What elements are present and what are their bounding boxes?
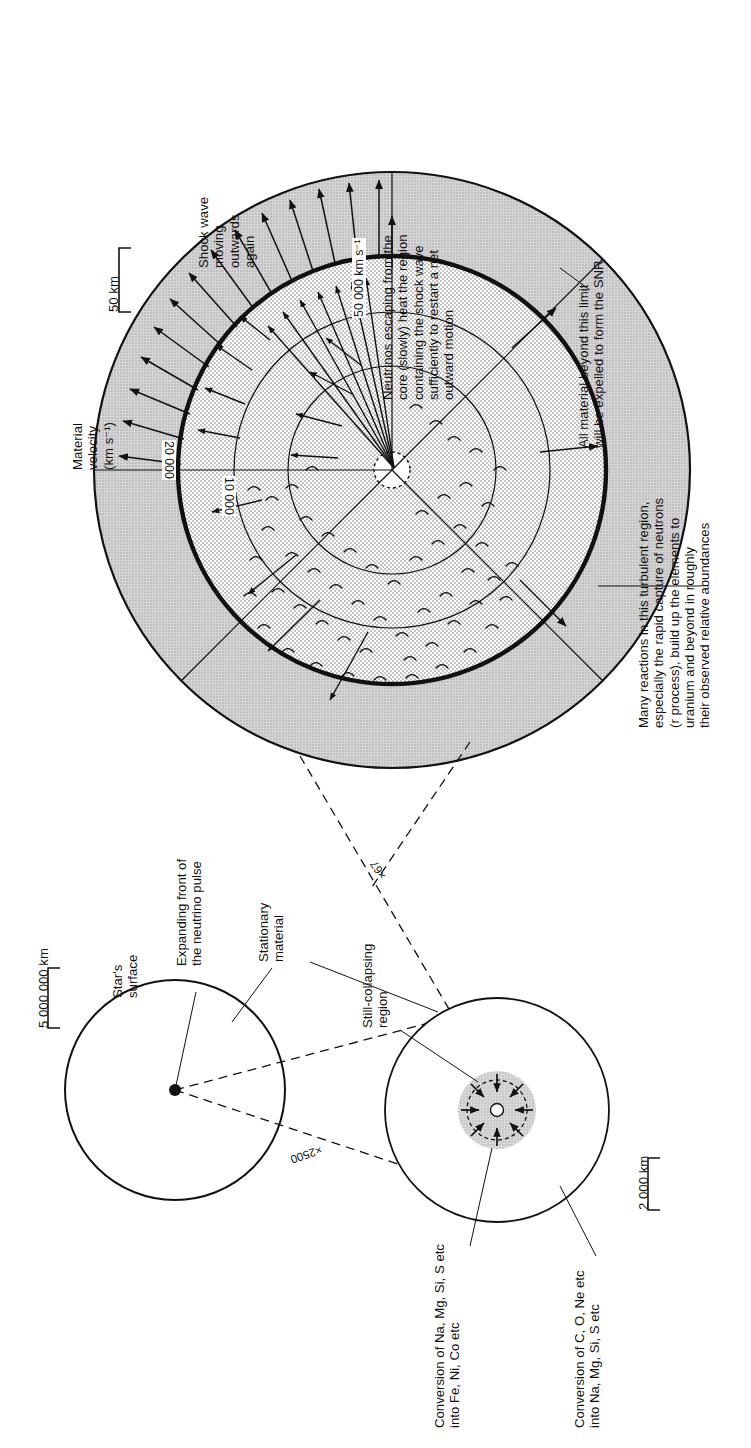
- stationary-material-label: Stationary material: [256, 903, 287, 962]
- neutrinos-annotation: Neutrinos escaping from the core (slowly…: [380, 234, 457, 400]
- scale-bar-2000km-label: 2 000 km: [636, 1156, 651, 1210]
- core-centre-circle: [491, 1104, 504, 1117]
- velocity-tick-20000: 20 000: [162, 440, 176, 480]
- diagram-canvas: Material velocity (km s⁻¹) 50 km Shock w…: [0, 0, 751, 1448]
- scale-bar-50km-label: 50 km: [106, 276, 121, 312]
- velocity-tick-10000: 10 000: [222, 476, 236, 516]
- leader-conversion-b: [560, 1186, 596, 1256]
- scale-bar-5000000km-label: 5 000 000 km: [36, 948, 51, 1028]
- shock-wave-annotation: Shock wave moving outwards again: [196, 197, 257, 268]
- velocity-tick-50000: 50 000 km s⁻¹: [352, 238, 366, 318]
- neutrino-pulse-label: Expanding front of the neutrino pulse: [174, 859, 205, 966]
- material-velocity-axis-label: Material velocity (km s⁻¹): [70, 422, 116, 470]
- still-collapsing-label: Still-collapsing region: [360, 944, 391, 1028]
- conversion-a-label: Conversion of Na, Mg, Si, S etc into Fe,…: [432, 1244, 463, 1428]
- conversion-b-label: Conversion of C, O, Ne etc into Na, Mg, …: [572, 1270, 603, 1428]
- expelled-material-annotation: All material beyond this limit will be e…: [576, 260, 607, 448]
- star-surface-label: Star's surface: [110, 955, 141, 998]
- r-process-annotation: Many reactions in this turbulent region,…: [636, 498, 713, 728]
- star-panel-group: [48, 968, 285, 1200]
